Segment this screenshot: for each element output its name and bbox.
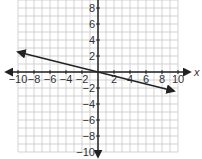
y-tick-label: 2 [89,50,95,62]
y-tick-label: 6 [89,18,95,30]
x-tick-label: 8 [159,73,165,85]
y-tick-label: −6 [82,114,95,126]
x-tick-label: 10 [172,73,184,85]
x-tick-label: −8 [28,73,41,85]
x-axis-label: x [193,66,200,78]
x-tick-label: −6 [44,73,57,85]
y-tick-label: −10 [76,146,95,158]
x-tick-label: −4 [60,73,73,85]
coordinate-plane: x −10−8−6−4−2246810 8642−2−4−6−8−10 [0,0,202,159]
y-tick-label: −8 [82,130,95,142]
y-tick-label: −2 [82,82,95,94]
y-tick-label: −4 [82,98,95,110]
y-tick-label: 4 [89,34,95,46]
x-tick-label: −10 [9,73,28,85]
y-tick-label: 8 [89,2,95,14]
